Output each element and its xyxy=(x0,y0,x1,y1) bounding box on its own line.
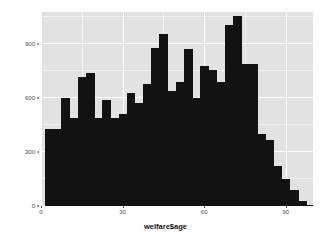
y-tick-label: 900 xyxy=(5,41,35,47)
y-tick-mark xyxy=(37,44,39,45)
x-tick-mark xyxy=(41,206,42,208)
histogram-plot: 0300600900 0306090 welfare$age xyxy=(0,0,331,250)
histogram-bar xyxy=(306,205,313,206)
histogram-bars xyxy=(41,12,313,206)
x-axis-title: welfare$age xyxy=(0,222,331,231)
x-tick-mark xyxy=(123,206,124,208)
x-tick-mark xyxy=(204,206,205,208)
x-tick-label: 60 xyxy=(201,209,208,215)
y-tick-mark xyxy=(37,98,39,99)
x-tick-label: 90 xyxy=(282,209,289,215)
y-tick-label: 0 xyxy=(5,203,35,209)
x-tick-mark xyxy=(286,206,287,208)
x-tick-label: 0 xyxy=(39,209,42,215)
y-tick-label: 300 xyxy=(5,149,35,155)
y-tick-mark xyxy=(37,206,39,207)
x-tick-label: 30 xyxy=(119,209,126,215)
plot-panel xyxy=(41,12,313,206)
y-tick-label: 600 xyxy=(5,95,35,101)
y-tick-mark xyxy=(37,152,39,153)
